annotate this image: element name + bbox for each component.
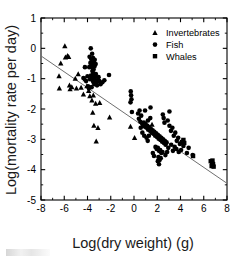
data-point — [128, 89, 133, 94]
y-tick-label: -1 — [27, 73, 36, 84]
x-tick-label: -4 — [83, 203, 92, 214]
data-point — [210, 158, 214, 162]
x-axis-label: Log(dry weight) (g) — [72, 235, 194, 251]
x-tick-label: -2 — [106, 203, 115, 214]
data-point — [161, 112, 166, 117]
data-point — [88, 46, 93, 51]
data-point — [137, 108, 142, 113]
data-point — [89, 85, 94, 90]
data-point — [153, 54, 157, 58]
data-point — [171, 149, 176, 154]
y-tick-label: 0 — [30, 43, 36, 54]
x-tick-label: 2 — [154, 203, 160, 214]
x-tick-labels: -8-6-4-202468 — [37, 203, 231, 214]
data-point — [87, 55, 92, 60]
data-point — [129, 93, 134, 98]
data-point — [182, 141, 186, 145]
data-point — [130, 110, 135, 115]
data-point — [87, 65, 92, 70]
scatter-plot: -8-6-4-202468 10-1-2-3-4-5 Invertebrates… — [0, 0, 249, 259]
legend-label: Invertebrates — [166, 28, 220, 38]
x-tick-label: 8 — [224, 203, 230, 214]
y-tick-label: 1 — [30, 13, 36, 24]
data-point — [157, 162, 162, 167]
data-point — [186, 146, 191, 151]
data-point — [166, 146, 171, 151]
y-tick-label: -5 — [27, 195, 36, 206]
legend-label: Whales — [166, 52, 197, 62]
y-tick-label: -4 — [27, 164, 36, 175]
y-tick-label: -2 — [27, 104, 36, 115]
data-point — [151, 151, 156, 156]
data-point — [165, 118, 170, 123]
data-point — [88, 61, 93, 66]
data-point — [143, 108, 148, 113]
data-point — [164, 140, 169, 145]
legend-label: Fish — [166, 40, 183, 50]
data-point — [96, 75, 101, 80]
data-point — [167, 109, 172, 114]
data-point — [173, 130, 178, 135]
data-point — [211, 164, 215, 168]
data-point — [191, 154, 195, 158]
y-axis-label: Log(mortality rate per day) — [3, 25, 19, 195]
data-point — [139, 113, 144, 118]
data-point — [176, 136, 181, 141]
data-point — [83, 65, 88, 70]
data-point — [102, 78, 107, 83]
plot-background — [0, 0, 249, 259]
legend-marker-square — [153, 54, 157, 58]
x-tick-label: 4 — [178, 203, 184, 214]
data-point — [107, 73, 112, 78]
data-point — [153, 42, 158, 47]
legend-marker-circle — [153, 42, 158, 47]
data-point — [128, 100, 133, 105]
data-point — [148, 105, 153, 110]
x-tick-label: 0 — [131, 203, 137, 214]
data-point — [92, 64, 97, 69]
x-tick-label: -6 — [60, 203, 69, 214]
data-point — [147, 133, 152, 138]
y-tick-label: -3 — [27, 134, 36, 145]
data-point — [140, 130, 145, 135]
data-point — [138, 126, 143, 131]
x-tick-label: 6 — [201, 203, 207, 214]
data-point — [163, 153, 168, 158]
data-point — [170, 126, 175, 131]
data-point — [145, 139, 150, 144]
data-point — [185, 151, 190, 156]
data-point — [81, 76, 86, 81]
figure-container: -8-6-4-202468 10-1-2-3-4-5 Invertebrates… — [0, 0, 249, 259]
data-point — [148, 116, 153, 121]
x-tick-label: -8 — [37, 203, 46, 214]
data-point — [85, 74, 90, 79]
